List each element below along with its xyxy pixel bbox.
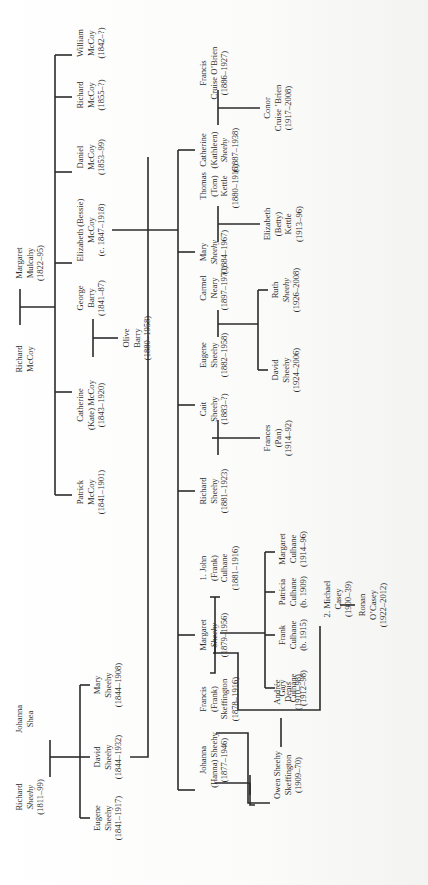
family-tree: Richard Sheehy (1811–99) Johanna Shea Eu… xyxy=(0,0,428,885)
family-tree-page: Richard Sheehy (1811–99) Johanna Shea Eu… xyxy=(0,0,428,885)
person-william-mccoy: William McCoy (1842–?) xyxy=(75,27,107,58)
person-ruth-sheehy: Ruth Sheehy (1926–2008) xyxy=(270,268,302,312)
person-david-sheehy-1924: David Sheehy (1924–2006) xyxy=(270,348,302,392)
person-ronan-ocasey: Ronan O’Casey (1922–2012) xyxy=(357,583,389,627)
person-frank-culhane: Frank Culhane (b. 1915) xyxy=(277,619,309,651)
person-eugene-sheehy-1841: Eugene Sheehy (1841–1917) xyxy=(92,796,124,840)
person-francis-skeffington: Francis (Frank) Skeffington (1878–1916) xyxy=(198,677,240,721)
person-conor-cruise-obrien: Conor Cruise ’Brien (1917–2008) xyxy=(262,85,294,132)
person-gary-culhane: Gary Culhane (1912–98) xyxy=(277,670,309,706)
person-elizabeth-bessie-mccoy: Elizabeth (Bessie) McCoy (c. 1847–1918) xyxy=(75,199,107,262)
person-richard-mccoy: Richard McCoy xyxy=(14,345,35,372)
person-margaret-culhane: Margaret Culhane (1914–96) xyxy=(277,531,309,567)
person-francis-cruise-obrien: Francis Cruise O’Brien (1886–1927) xyxy=(198,47,230,100)
person-michael-casey: 2. Michael Casey (1900–39) xyxy=(322,581,354,618)
person-richard-sheehy-1881: Richard Sheehy (1881–1923) xyxy=(198,469,230,513)
person-catherine-kathleen-sheehy: Catherine (Kathleen) Sheehy (1887–1938) xyxy=(198,128,240,172)
person-mary-sheehy-1844: Mary Sheehy (1844–1908) xyxy=(92,663,124,707)
person-john-culhane: 1. John (Frank) Culhane (1881–1916) xyxy=(198,546,240,590)
person-margaret-mulcahy: Margaret Mulcahy (1822–95) xyxy=(14,245,46,281)
person-patrick-mccoy: Patrick McCoy (1841–1901) xyxy=(75,470,107,514)
person-richard-mccoy-1855: Richard McCoy (1855–?) xyxy=(75,79,107,110)
person-hanna-sheehy: Johanna (Hanna) Sheehy (1877–1946) xyxy=(198,732,230,788)
person-owen-sheehy-skeffington: Owen Sheehy Skeffington (1909–70) xyxy=(272,751,304,799)
person-daniel-mccoy: Daniel McCoy (1853–99) xyxy=(75,139,107,175)
person-mary-sheehy-1884: Mary Sheehy (1884–1967) xyxy=(198,230,230,274)
person-olive-barry: Olive Barry (1880–1958) xyxy=(121,316,153,360)
person-george-barry: George Barry (1841–87) xyxy=(75,280,107,316)
person-johanna-shea: Johanna Shea xyxy=(14,705,35,733)
person-eugene-sheehy-1882: Eugene Sheehy (1882–1958) xyxy=(198,333,230,377)
person-margaret-sheehy: Margaret Sheehy (1879–1956) xyxy=(198,613,230,657)
person-frances-pan: Frances (Pan) (1914–92) xyxy=(262,420,294,456)
person-david-sheehy: David Sheehy (1844–1932) xyxy=(92,735,124,779)
person-patricia-culhane: Patricia Culhane (b. 1909) xyxy=(277,576,309,608)
person-elizabeth-betty-kettle: Elizabeth (Betty) Kettle (1913–96) xyxy=(262,206,304,242)
person-catherine-kate-mccoy: Catherine (Kate) McCoy (1843–1920) xyxy=(75,380,107,430)
person-richard-sheehy-1811: Richard Sheehy (1811–99) xyxy=(14,779,46,814)
person-cait-sheehy: Cait Sheehy (1883–?) xyxy=(198,393,230,424)
